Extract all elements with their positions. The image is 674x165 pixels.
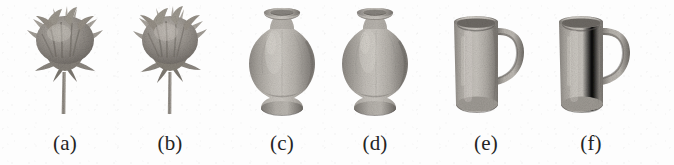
panel-caption-e: (e): [436, 133, 536, 154]
panel-caption-f: (f): [541, 133, 641, 154]
mug-3d-model-icon: [541, 0, 641, 124]
panel-caption-c: (c): [237, 133, 327, 154]
mug-3d-model-icon: [436, 0, 536, 124]
vase-3d-model-icon: [330, 0, 420, 124]
panel-caption-a: (a): [15, 133, 115, 154]
figure-panel-a: (a): [15, 0, 115, 165]
flower-3d-model-icon: [15, 0, 115, 124]
flower-3d-model-icon: [120, 0, 220, 124]
figure-panel-f: (f): [541, 0, 641, 165]
figure-panel-e: (e): [436, 0, 536, 165]
figure-panel-d: (d): [330, 0, 420, 165]
vase-3d-model-icon: [237, 0, 327, 124]
panel-caption-d: (d): [330, 133, 420, 154]
figure-panel-row: (a): [0, 0, 674, 165]
panel-caption-b: (b): [120, 133, 220, 154]
figure-panel-c: (c): [237, 0, 327, 165]
figure-panel-b: (b): [120, 0, 220, 165]
